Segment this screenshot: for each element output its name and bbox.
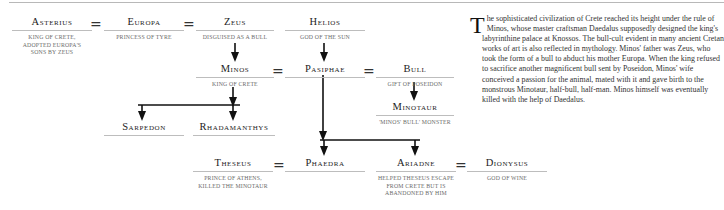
name-underline <box>376 77 454 78</box>
node-name: Minos <box>196 63 274 76</box>
node-desc: Helped Theseus escape from Crete but is … <box>376 175 456 198</box>
marriage-symbol: = <box>90 17 102 31</box>
name-underline <box>196 30 274 31</box>
name-underline <box>193 135 275 136</box>
drop-cap: T <box>470 16 485 34</box>
name-underline <box>467 171 547 172</box>
name-underline <box>285 30 365 31</box>
node-name: Pasiphae <box>285 63 365 76</box>
name-underline <box>376 115 454 116</box>
node-name: Helios <box>285 16 365 29</box>
node-desc: Disguised as a bull <box>196 34 274 42</box>
body-text: The sophisticated civilization of Crete … <box>482 14 724 105</box>
node-rhadamanthys: Rhadamanthys <box>193 121 275 136</box>
node-name: Asterius <box>12 16 92 29</box>
node-name: Minotaur <box>376 101 454 114</box>
node-desc: God of the sun <box>285 34 365 42</box>
node-phaedra: Phaedra <box>285 157 365 172</box>
node-pasiphae: Pasiphae <box>285 63 365 78</box>
marriage-symbol: = <box>363 64 375 78</box>
node-name: Rhadamanthys <box>193 121 275 134</box>
node-desc: God of wine <box>467 175 547 183</box>
node-desc: Prince of Athens, killed the Minotaur <box>193 175 273 190</box>
node-desc: King of Crete <box>196 81 274 89</box>
node-sarpedon: Sarpedon <box>104 121 184 136</box>
family-tree: Asterius King of Crete, adopted Europa's… <box>0 0 470 210</box>
marriage-symbol: = <box>272 64 284 78</box>
name-underline <box>376 171 456 172</box>
name-underline <box>285 171 365 172</box>
marriage-symbol: = <box>183 17 195 31</box>
node-name: Bull <box>376 63 454 76</box>
node-name: Ariadne <box>376 157 456 170</box>
name-underline <box>193 171 273 172</box>
node-name: Theseus <box>193 157 273 170</box>
node-desc: Gift of Poseidon <box>376 81 454 89</box>
node-theseus: Theseus Prince of Athens, killed the Min… <box>193 157 273 190</box>
node-dionysus: Dionysus God of wine <box>467 157 547 183</box>
name-underline <box>104 135 184 136</box>
node-name: Dionysus <box>467 157 547 170</box>
node-name: Zeus <box>196 16 274 29</box>
node-ariadne: Ariadne Helped Theseus escape from Crete… <box>376 157 456 198</box>
marriage-symbol: = <box>273 158 285 172</box>
name-underline <box>285 77 365 78</box>
node-name: Europa <box>104 16 184 29</box>
node-desc: King of Crete, adopted Europa's sons by … <box>12 34 92 57</box>
name-underline <box>104 30 184 31</box>
name-underline <box>196 77 274 78</box>
node-zeus: Zeus Disguised as a bull <box>196 16 274 42</box>
node-europa: Europa Princess of Tyre <box>104 16 184 42</box>
body-paragraph: he sophisticated civilization of Crete r… <box>482 14 724 104</box>
node-helios: Helios God of the sun <box>285 16 365 42</box>
node-name: Sarpedon <box>104 121 184 134</box>
node-desc: 'Minos' bull' monster <box>376 119 454 127</box>
node-asterius: Asterius King of Crete, adopted Europa's… <box>12 16 92 57</box>
marriage-symbol: = <box>455 158 467 172</box>
node-minos: Minos King of Crete <box>196 63 274 89</box>
node-name: Phaedra <box>285 157 365 170</box>
name-underline <box>12 30 92 31</box>
node-minotaur: Minotaur 'Minos' bull' monster <box>376 101 454 127</box>
node-desc: Princess of Tyre <box>104 34 184 42</box>
node-bull: Bull Gift of Poseidon <box>376 63 454 89</box>
